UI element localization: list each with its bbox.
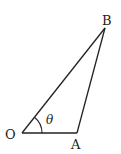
triangle-diagram: θ O A B xyxy=(0,0,121,154)
vertex-label-B: B xyxy=(102,13,112,28)
theta-label: θ xyxy=(46,113,54,127)
vertex-label-A: A xyxy=(70,137,81,152)
angle-arc xyxy=(34,117,42,133)
side-AB xyxy=(77,28,105,133)
vertex-label-O: O xyxy=(5,127,16,142)
